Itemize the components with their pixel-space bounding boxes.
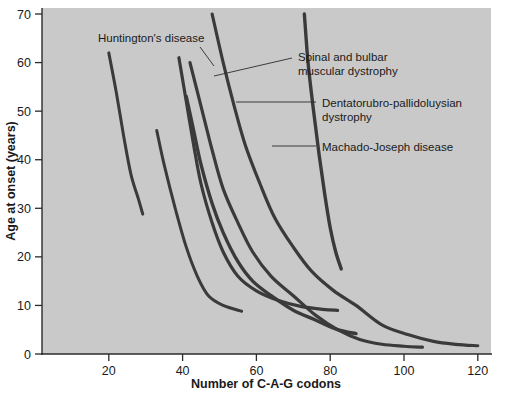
y-tick-label-40: 40 <box>17 153 31 167</box>
x-tick-label-40: 40 <box>176 364 190 378</box>
y-tick-label-70: 70 <box>17 8 31 22</box>
annotation-label-spinal-and-bulbar-muscular-dystrophy-line1: Spinal and bulbar <box>298 51 388 63</box>
y-tick-label-10: 10 <box>17 299 31 313</box>
y-axis-title: Age at onset (years) <box>4 121 18 240</box>
x-tick-label-60: 60 <box>249 364 263 378</box>
annotation-label-huntington-s-disease: Huntington's disease <box>98 32 204 44</box>
annotation-label-spinal-and-bulbar-muscular-dystrophy-line2: muscular dystrophy <box>298 65 398 77</box>
y-tick-label-30: 30 <box>17 202 31 216</box>
annotation-label-dentatorubro-pallidoluysian-dystrophy-line1: Dentatorubro-pallidoluysian <box>322 97 462 109</box>
x-tick-label-100: 100 <box>394 364 415 378</box>
figure-container: Huntington's diseaseSpinal and bulbarmus… <box>0 0 505 395</box>
y-tick-label-60: 60 <box>17 56 31 70</box>
annotation-label-machado-joseph-disease: Machado-Joseph disease <box>322 141 453 153</box>
annotation-label-dentatorubro-pallidoluysian-dystrophy-line2: dystrophy <box>322 111 372 123</box>
y-tick-label-20: 20 <box>17 250 31 264</box>
x-tick-label-120: 120 <box>467 364 488 378</box>
onset-vs-cag-chart: Huntington's diseaseSpinal and bulbarmus… <box>0 0 505 395</box>
annotation-machado-joseph-disease: Machado-Joseph disease <box>322 141 453 153</box>
annotation-huntington-s-disease: Huntington's disease <box>98 32 204 44</box>
y-axis-ticks: 010203040506070 <box>17 8 42 362</box>
x-tick-label-80: 80 <box>323 364 337 378</box>
x-axis-ticks: 20406080100120 <box>102 354 488 378</box>
y-tick-label-50: 50 <box>17 105 31 119</box>
x-axis-title: Number of C-A-G codons <box>191 377 341 391</box>
y-tick-label-0: 0 <box>24 348 31 362</box>
x-tick-label-20: 20 <box>102 364 116 378</box>
